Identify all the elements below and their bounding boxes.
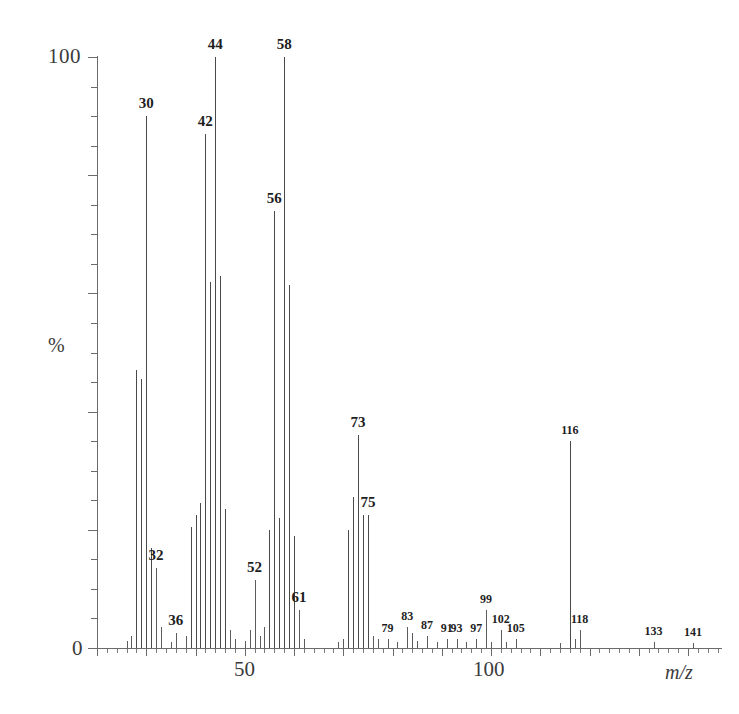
spectrum-peak xyxy=(191,527,192,648)
x-axis-tick xyxy=(550,649,551,653)
spectrum-peak xyxy=(378,639,379,648)
spectrum-peak xyxy=(476,639,477,648)
y-axis-tick xyxy=(88,648,97,649)
x-axis-tick xyxy=(136,649,137,653)
peak-label: 79 xyxy=(382,621,394,636)
y-axis-tick xyxy=(91,323,97,324)
spectrum-peak xyxy=(255,580,256,648)
spectrum-peak xyxy=(210,282,211,648)
x-axis-tick xyxy=(698,649,699,653)
spectrum-peak xyxy=(447,639,448,648)
y-axis-tick xyxy=(88,175,97,176)
x-axis-tick xyxy=(658,649,659,653)
spectrum-peak xyxy=(127,641,128,648)
x-axis-tick xyxy=(97,649,98,656)
x-axis-tick xyxy=(127,649,128,653)
peak-label: 61 xyxy=(291,589,306,606)
peak-label: 30 xyxy=(139,95,154,112)
x-axis-tick xyxy=(166,649,167,653)
peak-label: 133 xyxy=(645,624,663,639)
y-axis-tick xyxy=(91,205,97,206)
x-axis-tick xyxy=(383,649,384,653)
peak-label: 73 xyxy=(351,414,366,431)
spectrum-peak xyxy=(373,636,374,648)
x-axis-tick xyxy=(294,649,295,656)
x-axis-tick xyxy=(373,649,374,653)
x-axis-tick xyxy=(590,649,591,656)
peak-label: 44 xyxy=(208,36,223,53)
x-axis-tick xyxy=(422,649,423,653)
x-axis-tick xyxy=(668,649,669,653)
y-axis-max-label: 100 xyxy=(48,44,81,69)
x-axis-tick xyxy=(363,649,364,653)
spectrum-plot-area: 3032364244525658617375798387919397991021… xyxy=(0,0,739,714)
x-axis-tick xyxy=(235,649,236,653)
peak-label: 97 xyxy=(470,621,482,636)
x-axis-tick xyxy=(501,649,502,653)
x-axis-title: m/z xyxy=(665,661,693,684)
spectrum-peak xyxy=(186,636,187,648)
y-axis-tick xyxy=(91,441,97,442)
y-axis-tick xyxy=(91,471,97,472)
spectrum-peak xyxy=(368,515,369,648)
x-axis-tick xyxy=(708,649,709,653)
peak-label: 83 xyxy=(401,609,413,624)
spectrum-peak xyxy=(176,633,177,648)
spectrum-peak xyxy=(580,630,581,648)
x-axis-tick xyxy=(156,649,157,653)
x-axis-tick xyxy=(452,649,453,653)
x-axis-tick xyxy=(570,649,571,653)
spectrum-peak xyxy=(196,515,197,648)
peak-label: 42 xyxy=(198,113,213,130)
y-axis-tick xyxy=(91,353,97,354)
spectrum-peak xyxy=(501,630,502,648)
x-axis-tick xyxy=(274,649,275,653)
x-axis-tick xyxy=(176,649,177,653)
spectrum-peak xyxy=(516,639,517,648)
y-axis-tick xyxy=(91,618,97,619)
spectrum-peak xyxy=(131,636,132,648)
spectrum-peak xyxy=(215,57,216,648)
spectrum-peak xyxy=(200,503,201,648)
x-axis-tick xyxy=(412,649,413,653)
spectrum-peak xyxy=(225,509,226,648)
y-axis-tick xyxy=(88,530,97,531)
x-axis-tick xyxy=(304,649,305,653)
peak-label: 116 xyxy=(561,423,578,438)
spectrum-peak xyxy=(260,636,261,648)
spectrum-peak xyxy=(358,435,359,648)
y-axis-tick xyxy=(91,264,97,265)
x-axis-tick xyxy=(314,649,315,653)
spectrum-peak xyxy=(353,497,354,648)
x-axis-tick xyxy=(146,649,147,656)
spectrum-peak xyxy=(284,57,285,648)
x-axis-tick xyxy=(255,649,256,653)
spectrum-peak xyxy=(575,639,576,648)
x-axis-tick xyxy=(511,649,512,653)
peak-label: 141 xyxy=(684,625,702,640)
y-axis-title: % xyxy=(48,334,65,357)
spectrum-peak xyxy=(141,379,142,648)
spectrum-peak xyxy=(343,639,344,648)
x-axis-tick xyxy=(718,649,719,653)
x-axis-tick xyxy=(402,649,403,653)
y-axis-tick xyxy=(91,500,97,501)
spectrum-peak xyxy=(269,530,270,648)
spectrum-peak xyxy=(388,639,389,648)
x-axis-tick xyxy=(205,649,206,653)
x-axis-tick xyxy=(196,649,197,656)
x-axis-tick xyxy=(619,649,620,653)
spectrum-peak xyxy=(250,630,251,648)
spectrum-peak xyxy=(274,211,275,648)
y-axis-tick xyxy=(91,116,97,117)
spectrum-peak xyxy=(457,639,458,648)
x-axis-tick xyxy=(688,649,689,656)
x-axis-tick xyxy=(245,649,246,656)
spectrum-peak xyxy=(156,568,157,648)
x-axis-tick xyxy=(117,649,118,653)
peak-label: 52 xyxy=(247,559,262,576)
spectrum-peak xyxy=(417,641,418,648)
x-axis-tick xyxy=(333,649,334,653)
spectrum-peak xyxy=(279,518,280,648)
spectrum-peak xyxy=(245,641,246,648)
